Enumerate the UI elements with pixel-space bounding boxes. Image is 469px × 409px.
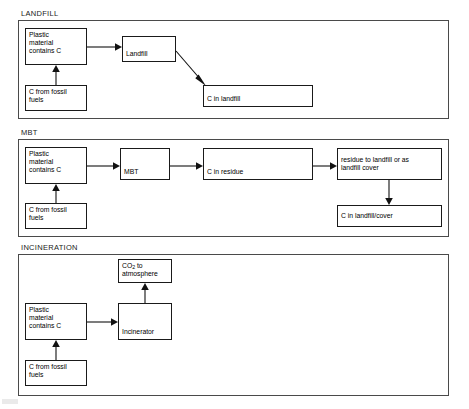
box-label: C from fossil fuels: [29, 88, 67, 104]
box-incineration-plastic-material: Plastic material contains C: [25, 303, 87, 340]
box-landfill-fossil-carbon: C from fossil fuels: [25, 85, 87, 111]
box-mbt-residue-route: residue to landfill or as landfill cover: [337, 148, 442, 180]
box-landfill-carbon-sink: C in landfill: [203, 85, 313, 107]
box-mbt-fossil-carbon: C from fossil fuels: [25, 203, 87, 229]
scan-artifact: [2, 399, 18, 404]
box-label: residue to landfill or as landfill cover: [341, 156, 409, 172]
box-label: C from fossil fuels: [29, 363, 67, 379]
box-label: Plastic material contains C: [29, 150, 83, 175]
box-mbt-carbon-sink: C in landfill/cover: [337, 205, 442, 227]
section-label-incineration: INCINERATION: [21, 243, 78, 252]
box-incineration-process: Incinerator: [118, 303, 172, 340]
box-label: C in landfill: [207, 95, 240, 103]
section-label-landfill: LANDFILL: [21, 9, 58, 18]
box-label: C in residue: [207, 168, 243, 176]
box-incineration-co2-atmosphere: CO2 to atmosphere: [118, 259, 172, 283]
co2-formula-subscript: 2: [132, 264, 135, 270]
box-landfill-plastic-material: Plastic material contains C: [25, 28, 87, 65]
box-label: Plastic material contains C: [29, 306, 83, 331]
box-mbt-plastic-material: Plastic material contains C: [25, 147, 87, 184]
section-label-mbt: MBT: [21, 128, 38, 137]
box-mbt-process: MBT: [120, 148, 170, 180]
box-label: C in landfill/cover: [341, 212, 393, 220]
box-label: C from fossil fuels: [29, 206, 67, 222]
co2-formula-prefix: CO: [122, 262, 132, 269]
box-landfill-process: Landfill: [122, 36, 176, 62]
box-label: Landfill: [126, 50, 148, 58]
box-label: Plastic material contains C: [29, 31, 83, 56]
box-incineration-fossil-carbon: C from fossil fuels: [25, 360, 87, 386]
box-mbt-carbon-in-residue: C in residue: [203, 148, 313, 180]
box-label: MBT: [124, 168, 138, 176]
box-label: CO2 to atmosphere: [122, 262, 168, 278]
waste-carbon-flow-diagram: LANDFILL Plastic material contains C C f…: [0, 0, 469, 409]
box-label: Incinerator: [122, 328, 154, 336]
